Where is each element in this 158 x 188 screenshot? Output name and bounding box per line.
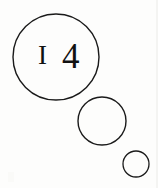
figure-number-glyph-two: 4 <box>62 37 80 76</box>
figure-number-glyph-one: I <box>38 40 47 70</box>
figure-canvas: I 4 <box>0 0 158 188</box>
figure-drawing: I 4 <box>0 0 158 188</box>
